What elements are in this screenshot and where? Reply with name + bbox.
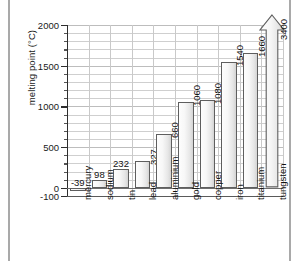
figure-frame-left-rule: [8, 0, 10, 261]
y-tick-minor: [64, 139, 68, 140]
y-tick-minor: [64, 33, 68, 34]
y-tick-minor: [64, 172, 68, 173]
bar: [221, 62, 237, 187]
y-tick-label: 2000: [19, 20, 59, 31]
x-category-label: sodium: [104, 169, 115, 200]
y-tick-minor: [64, 123, 68, 124]
y-tick-minor: [64, 49, 68, 50]
melting-point-bar-chart: melting point (°C) 2000150010005000-100 …: [0, 0, 301, 261]
y-tick-label: 1500: [19, 60, 59, 71]
x-category-label: titanium: [255, 167, 266, 200]
y-tick-major: [61, 106, 67, 107]
bar: [178, 102, 194, 188]
x-category-label: iron: [234, 184, 245, 200]
y-tick-minor: [64, 82, 68, 83]
y-tick-major: [61, 147, 67, 148]
x-category-label: tin: [126, 190, 137, 200]
y-tick-minor: [64, 98, 68, 99]
y-tick-major: [61, 196, 67, 197]
x-category-label: aluminium: [169, 157, 180, 200]
y-tick-minor: [64, 155, 68, 156]
figure-frame-right-rule: [289, 0, 291, 261]
bar-tungsten-overflow-arrow: [259, 14, 285, 188]
x-category-label: gold: [190, 182, 201, 200]
gridline-vertical: [197, 25, 198, 196]
gridline-vertical: [153, 25, 154, 196]
y-axis-spine: [67, 25, 68, 196]
bar: [113, 169, 129, 188]
y-tick-major: [61, 188, 67, 189]
y-tick-minor: [64, 90, 68, 91]
x-category-label: tungsten: [277, 164, 288, 200]
y-tick-label: 1000: [19, 101, 59, 112]
y-tick-major: [61, 66, 67, 67]
y-tick-minor: [64, 131, 68, 132]
y-tick-minor: [64, 115, 68, 116]
y-tick-minor: [64, 74, 68, 75]
y-tick-label: -100: [19, 191, 59, 202]
y-tick-minor: [64, 41, 68, 42]
x-category-label: copper: [212, 171, 223, 200]
y-tick-minor: [64, 58, 68, 59]
bar-value-label: 232: [107, 158, 135, 169]
x-category-label: mercury: [82, 166, 93, 200]
gridline-vertical: [132, 25, 133, 196]
y-tick-label: 500: [19, 142, 59, 153]
y-tick-minor: [64, 163, 68, 164]
bar-value-label: 3400: [278, 19, 289, 40]
x-category-label: lead: [147, 182, 158, 200]
y-tick-major: [61, 25, 67, 26]
